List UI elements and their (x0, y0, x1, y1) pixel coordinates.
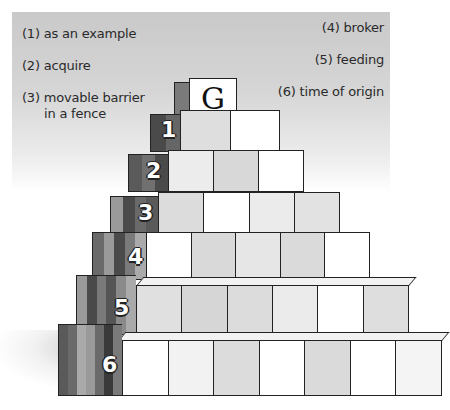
row-3-number: 3 (138, 200, 153, 225)
pyramid-row-3: 3 (110, 192, 340, 234)
clue-1: (1) as an example (22, 26, 136, 42)
row-4-blocks[interactable] (146, 232, 370, 280)
row-5-number: 5 (114, 295, 129, 320)
clue-5: (5) feeding (315, 52, 384, 68)
clue-4: (4) broker (322, 20, 384, 36)
row-6-number: 6 (102, 352, 117, 377)
row-4-number: 4 (128, 244, 143, 269)
row-2-number: 2 (146, 158, 161, 183)
pyramid-row-1: 1 (150, 110, 280, 152)
row-2-blocks[interactable] (168, 150, 304, 192)
pyramid-row-6: 6 (58, 340, 442, 396)
row-5-blocks[interactable] (136, 285, 409, 335)
pyramid-row-2: 2 (128, 150, 304, 192)
pyramid-row-5: 5 (76, 285, 409, 335)
clue-3: (3) movable barrier (22, 90, 145, 106)
row-3-blocks[interactable] (158, 192, 340, 234)
pyramid-row-4: 4 (92, 232, 370, 280)
row-1-blocks[interactable] (180, 110, 280, 152)
row-1-number: 1 (161, 117, 176, 142)
clue-3-continued: in a fence (44, 106, 106, 122)
clue-6: (6) time of origin (278, 84, 384, 100)
clue-2: (2) acquire (22, 58, 91, 74)
row-6-blocks[interactable] (122, 340, 442, 396)
